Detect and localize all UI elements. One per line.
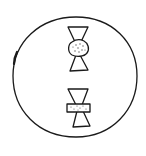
chromatid-arm-bottom xyxy=(73,111,90,127)
chromosome-lower xyxy=(67,89,90,127)
centromere-lower xyxy=(67,104,90,112)
chromatid-arm-top xyxy=(68,89,88,105)
cell-diagram xyxy=(0,0,146,156)
chromatid-arm-bottom xyxy=(70,55,88,71)
chromosome-upper xyxy=(68,27,88,71)
